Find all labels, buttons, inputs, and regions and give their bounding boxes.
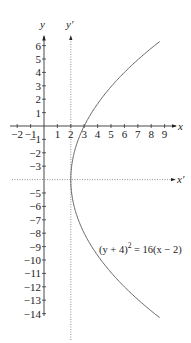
y-tick-label: 1	[36, 107, 42, 119]
y-tick-label: −13	[24, 294, 42, 306]
y-tick-label: −1	[29, 133, 41, 145]
x-tick-label: 9	[162, 128, 168, 140]
x-tick-label: 2	[68, 128, 74, 140]
x-tick-label: 7	[135, 128, 141, 140]
y-tick-label: −11	[24, 267, 41, 279]
y-prime-axis-label: y'	[65, 18, 74, 30]
y-tick-label: −2	[29, 147, 41, 159]
equation-label: (y + 4)2 = 16(x − 2)	[99, 241, 182, 256]
y-tick-label: −8	[29, 227, 41, 239]
y-tick-label: 5	[36, 53, 42, 65]
y-tick-label: −12	[24, 281, 41, 293]
y-tick-label: 3	[36, 80, 42, 92]
y-tick-label: −9	[29, 241, 41, 253]
x-tick-label: 4	[95, 128, 101, 140]
x-tick-label: 6	[122, 128, 128, 140]
y-tick-label: −5	[29, 187, 41, 199]
x-tick-label: 1	[55, 128, 61, 140]
x-prime-axis-label: x'	[176, 173, 185, 185]
y-tick-label: 4	[36, 66, 42, 78]
y-tick-label: −3	[29, 160, 41, 172]
y-tick-label: −7	[29, 214, 41, 226]
y-tick-label: −14	[24, 308, 42, 320]
parabola-diagram: −2−1123456789654321−1−2−3−5−6−7−8−9−10−1…	[0, 0, 191, 343]
x-tick-label: −2	[11, 128, 23, 140]
x-tick-label: 5	[108, 128, 114, 140]
y-tick-label: −10	[24, 254, 42, 266]
y-axis-label: y	[39, 18, 45, 30]
y-tick-label: 6	[36, 40, 42, 52]
x-axis-label: x	[177, 120, 183, 132]
x-tick-label: 8	[148, 128, 154, 140]
y-tick-label: 2	[36, 93, 42, 105]
y-tick-label: −6	[29, 200, 41, 212]
